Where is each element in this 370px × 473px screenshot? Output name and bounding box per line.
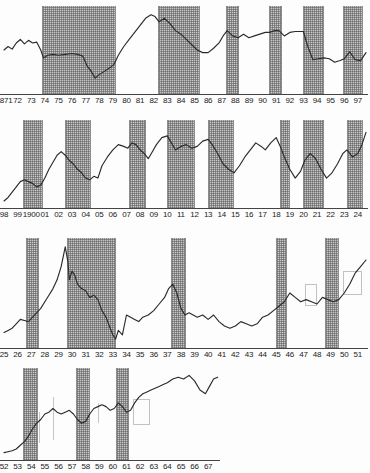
x-tick-label: 46 [286, 350, 295, 359]
plot-area [0, 368, 370, 460]
x-tick-label: 44 [258, 350, 267, 359]
x-tick-label: 1900 [23, 210, 40, 219]
axis-line [0, 348, 368, 349]
x-tick-label: 36 [149, 350, 158, 359]
chart-panel: 2526272829303132333435363738394041424344… [0, 238, 370, 365]
x-tick-label: 74 [41, 96, 50, 105]
x-tick-label: 06 [109, 210, 118, 219]
x-tick-label: 80 [122, 96, 131, 105]
x-tick-label: 41 [217, 350, 226, 359]
x-tick-label: 85 [190, 96, 199, 105]
chart-panel: 52535455565758596061626364656667 [0, 368, 370, 473]
x-tick-label: 94 [313, 96, 322, 105]
x-axis: 2526272829303132333435363738394041424344… [0, 348, 370, 364]
x-tick-label: 51 [354, 350, 363, 359]
x-tick-label: 66 [190, 462, 199, 471]
x-tick-label: 34 [122, 350, 131, 359]
x-tick-label: 32 [95, 350, 104, 359]
x-tick-label: 78 [95, 96, 104, 105]
x-axis: 52535455565758596061626364656667 [0, 460, 370, 473]
x-tick-label: 24 [354, 210, 363, 219]
business-activity-series [4, 247, 366, 339]
series-svg [0, 6, 370, 94]
x-tick-label: 21 [313, 210, 322, 219]
x-tick-label: 45 [272, 350, 281, 359]
x-tick-label: 98 [0, 210, 8, 219]
chart-panel: 9899190001020304050607080910111213141516… [0, 120, 370, 225]
x-tick-label: 33 [109, 350, 118, 359]
chart-panel: 1871727374757677787980818283848586878889… [0, 6, 370, 111]
x-tick-label: 72 [13, 96, 22, 105]
x-tick-label: 02 [54, 210, 63, 219]
x-tick-label: 59 [95, 462, 104, 471]
series-svg [0, 238, 370, 348]
x-tick-label: 12 [190, 210, 199, 219]
x-tick-label: 64 [163, 462, 172, 471]
axis-line [0, 208, 368, 209]
x-tick-label: 86 [204, 96, 213, 105]
series-svg [0, 120, 370, 208]
x-tick-label: 42 [231, 350, 240, 359]
x-tick-label: 28 [41, 350, 50, 359]
x-tick-label: 89 [245, 96, 254, 105]
plot-area [0, 6, 370, 94]
x-tick-label: 39 [190, 350, 199, 359]
x-tick-label: 20 [299, 210, 308, 219]
x-tick-label: 90 [258, 96, 267, 105]
x-tick-label: 49 [326, 350, 335, 359]
x-tick-label: 50 [340, 350, 349, 359]
x-tick-label: 53 [13, 462, 22, 471]
x-tick-label: 57 [68, 462, 77, 471]
x-tick-label: 79 [109, 96, 118, 105]
x-tick-label: 76 [68, 96, 77, 105]
x-tick-label: 52 [0, 462, 8, 471]
x-tick-label: 15 [231, 210, 240, 219]
x-tick-label: 14 [217, 210, 226, 219]
x-tick-label: 55 [41, 462, 50, 471]
axis-line [0, 94, 368, 95]
x-tick-label: 26 [13, 350, 22, 359]
x-tick-label: 29 [54, 350, 63, 359]
plot-area [0, 120, 370, 208]
x-tick-label: 65 [177, 462, 186, 471]
x-tick-label: 40 [204, 350, 213, 359]
x-tick-label: 58 [81, 462, 90, 471]
x-tick-label: 19 [286, 210, 295, 219]
x-tick-label: 10 [163, 210, 172, 219]
x-tick-label: 62 [136, 462, 145, 471]
x-tick-label: 35 [136, 350, 145, 359]
x-tick-label: 04 [81, 210, 90, 219]
business-cycle-chart: 1871727374757677787980818283848586878889… [0, 0, 370, 473]
x-tick-label: 77 [81, 96, 90, 105]
x-axis: 1871727374757677787980818283848586878889… [0, 94, 370, 110]
x-tick-label: 43 [245, 350, 254, 359]
x-tick-label: 81 [136, 96, 145, 105]
x-tick-label: 25 [0, 350, 8, 359]
x-tick-label: 05 [95, 210, 104, 219]
x-tick-label: 23 [340, 210, 349, 219]
x-tick-label: 84 [177, 96, 186, 105]
x-tick-label: 08 [136, 210, 145, 219]
x-axis: 9899190001020304050607080910111213141516… [0, 208, 370, 224]
x-tick-label: 22 [326, 210, 335, 219]
x-tick-label: 30 [68, 350, 77, 359]
x-tick-label: 61 [122, 462, 131, 471]
x-tick-label: 11 [177, 210, 185, 219]
x-tick-label: 88 [231, 96, 240, 105]
x-tick-label: 99 [13, 210, 22, 219]
x-tick-label: 87 [217, 96, 226, 105]
x-tick-label: 83 [163, 96, 172, 105]
x-tick-label: 56 [54, 462, 63, 471]
x-tick-label: 54 [27, 462, 36, 471]
x-tick-label: 38 [177, 350, 186, 359]
axis-line [0, 460, 220, 461]
x-tick-label: 01 [41, 210, 50, 219]
x-tick-label: 75 [54, 96, 63, 105]
x-tick-label: 82 [149, 96, 158, 105]
x-tick-label: 16 [245, 210, 254, 219]
x-tick-label: 27 [27, 350, 36, 359]
x-tick-label: 03 [68, 210, 77, 219]
x-tick-label: 07 [122, 210, 131, 219]
x-tick-label: 60 [109, 462, 118, 471]
business-activity-series [4, 375, 218, 452]
